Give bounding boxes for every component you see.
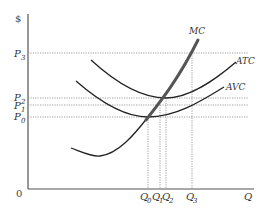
svg-text:P: P: [13, 111, 21, 122]
svg-text:3: 3: [193, 197, 198, 205]
mc-curve: [71, 117, 148, 156]
svg-text:P: P: [13, 48, 21, 59]
avc-label: AVC: [225, 82, 246, 92]
svg-text:1: 1: [21, 106, 25, 114]
mc-label: MC: [188, 26, 205, 36]
q0-label: Q 0: [140, 191, 152, 205]
svg-text:P: P: [13, 100, 21, 111]
origin-label: 0: [16, 188, 22, 199]
p3-label: P 3: [13, 48, 26, 62]
x-axis-label: Q: [244, 191, 252, 202]
q2-label: Q 2: [162, 191, 174, 205]
cost-curves-diagram: $ 0 Q MC ATC AVC P 3 P 2 P 1 P 0 Q 0 Q 1…: [0, 0, 271, 213]
svg-text:2: 2: [168, 197, 174, 205]
q3-label: Q 3: [186, 191, 198, 205]
atc-label: ATC: [235, 56, 255, 66]
svg-text:2: 2: [20, 98, 26, 106]
svg-text:3: 3: [21, 54, 26, 62]
svg-text:0: 0: [21, 117, 26, 125]
mc-curve-highlight: [146, 40, 198, 120]
y-axis-label: $: [15, 13, 21, 24]
